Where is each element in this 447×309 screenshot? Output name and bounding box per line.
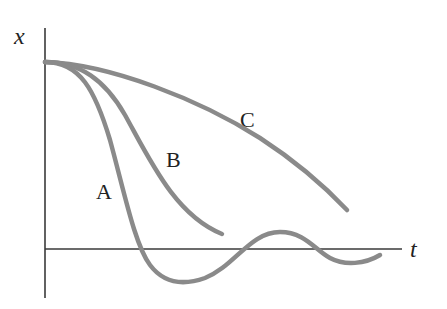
curve-c-label: C (240, 107, 255, 132)
curve-b (45, 62, 222, 234)
damped-oscillation-diagram: x t A B C (0, 0, 447, 309)
curve-b-label: B (166, 147, 181, 172)
y-axis-label: x (13, 23, 25, 49)
x-axis-label: t (410, 236, 418, 262)
curve-a-label: A (96, 179, 112, 204)
curve-c (45, 62, 347, 210)
